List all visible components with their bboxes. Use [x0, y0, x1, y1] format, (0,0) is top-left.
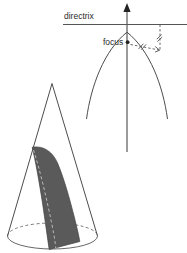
focus-distance-arrow-lower — [155, 50, 160, 52]
axis-arrowhead-icon — [123, 3, 130, 12]
focus-label: focus — [103, 37, 123, 47]
parabolic-cross-section-shading — [32, 147, 80, 250]
focus-point-dot — [126, 40, 130, 44]
cone-panel — [8, 84, 98, 250]
parabola-panel: directrix focus — [63, 3, 187, 152]
geometry-figure-svg: directrix focus — [0, 0, 187, 253]
directrix-label: directrix — [64, 11, 95, 21]
figure-container: directrix focus — [0, 0, 187, 253]
